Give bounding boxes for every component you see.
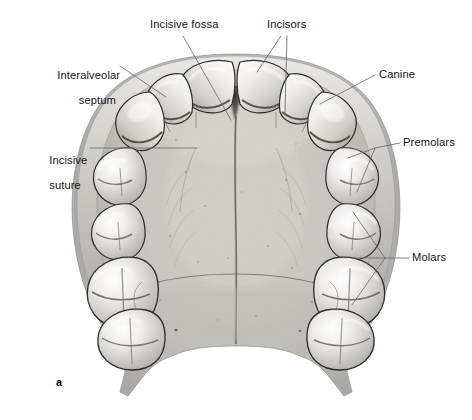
label-molars: Molars bbox=[412, 251, 446, 264]
label-premolars: Premolars bbox=[403, 136, 455, 149]
anatomy-figure: Incisive fossa Incisors Interalveolar se… bbox=[0, 0, 472, 420]
label-incisive-suture: Incisive suture bbox=[30, 141, 85, 204]
label-interalveolar-septum-line1: Interalveolar bbox=[57, 69, 120, 81]
label-interalveolar-septum: Interalveolar septum bbox=[38, 56, 116, 119]
label-incisive-suture-line1: Incisive bbox=[49, 154, 87, 166]
label-incisors: Incisors bbox=[267, 18, 306, 31]
label-incisive-suture-line2: suture bbox=[49, 179, 81, 191]
label-incisive-fossa: Incisive fossa bbox=[150, 18, 219, 31]
label-layer: Incisive fossa Incisors Interalveolar se… bbox=[0, 0, 472, 420]
figure-letter: a bbox=[56, 376, 62, 388]
label-canine: Canine bbox=[379, 68, 415, 81]
label-interalveolar-septum-line2: septum bbox=[79, 94, 116, 106]
